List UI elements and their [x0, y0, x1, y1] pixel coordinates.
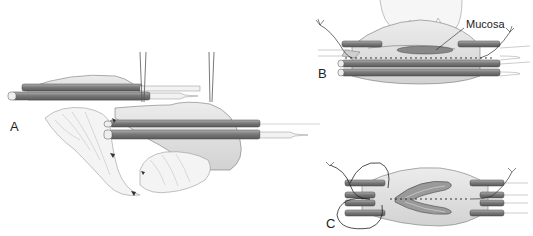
panel-a-drawing — [8, 52, 320, 196]
panel-c-drawing — [326, 162, 528, 229]
surgical-illustration: A B C Mucosa — [0, 0, 533, 236]
mucosa-annotation: Mucosa — [466, 19, 505, 30]
panel-label-b: B — [318, 67, 327, 80]
illustration-svg — [0, 0, 533, 236]
panel-label-a: A — [10, 120, 19, 133]
panel-label-c: C — [326, 217, 335, 230]
panel-b-drawing — [316, 0, 530, 84]
